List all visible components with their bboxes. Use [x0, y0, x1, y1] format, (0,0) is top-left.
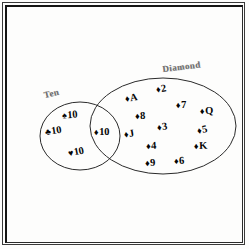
- card-rank-label: 10: [67, 109, 78, 120]
- club-pip-icon: ♣: [44, 128, 51, 138]
- card-diamond-q: ♦Q: [200, 106, 213, 117]
- card-rank-label: Q: [205, 106, 213, 117]
- card-rank-label: 4: [151, 141, 157, 152]
- venn-shapes-layer: [0, 0, 249, 249]
- card-rank-label: 10: [51, 125, 63, 137]
- card-rank-label: 8: [140, 111, 146, 122]
- card-diamond-10: ♦10: [94, 127, 109, 138]
- card-diamond-6: ♦6: [174, 156, 185, 167]
- figure-canvas: Ten Diamond ♠10♣10♥10♦10♦A♦2♦7♦Q♦8♦3♦5♦J…: [0, 0, 249, 249]
- diamond-pip-icon: ♦: [146, 142, 151, 151]
- diamond-pip-icon: ♦: [123, 130, 129, 140]
- card-diamond-2: ♦2: [155, 83, 167, 95]
- card-diamond-k: ♦K: [194, 141, 207, 152]
- card-rank-label: 10: [99, 127, 109, 138]
- diamond-pip-icon: ♦: [196, 126, 202, 136]
- card-diamond-9: ♦9: [145, 158, 156, 169]
- diamond-pip-icon: ♦: [94, 128, 99, 137]
- card-rank-label: 9: [150, 158, 156, 169]
- card-diamond-j: ♦J: [123, 128, 135, 140]
- diamond-pip-icon: ♦: [194, 142, 199, 151]
- diamond-pip-icon: ♦: [155, 85, 161, 95]
- diamond-pip-icon: ♦: [176, 101, 181, 110]
- card-rank-label: K: [199, 141, 207, 152]
- diamond-pip-icon: ♦: [145, 159, 150, 168]
- card-rank-label: 6: [179, 156, 185, 167]
- card-diamond-7: ♦7: [176, 100, 187, 111]
- diamond-pip-icon: ♦: [174, 157, 179, 166]
- spade-pip-icon: ♠: [62, 112, 67, 121]
- card-diamond-8: ♦8: [135, 111, 146, 122]
- diamond-pip-icon: ♦: [135, 112, 140, 121]
- diamond-pip-icon: ♦: [124, 95, 130, 105]
- card-diamond-5: ♦5: [196, 124, 208, 136]
- card-diamond-3: ♦3: [156, 121, 168, 133]
- card-rank-label: 10: [73, 146, 85, 158]
- card-diamond-a: ♦A: [124, 92, 138, 104]
- diamond-pip-icon: ♦: [156, 123, 162, 133]
- card-rank-label: 7: [181, 100, 186, 111]
- card-diamond-4: ♦4: [146, 141, 157, 152]
- diamond-pip-icon: ♦: [200, 107, 205, 116]
- card-spade-10: ♠10: [62, 109, 78, 121]
